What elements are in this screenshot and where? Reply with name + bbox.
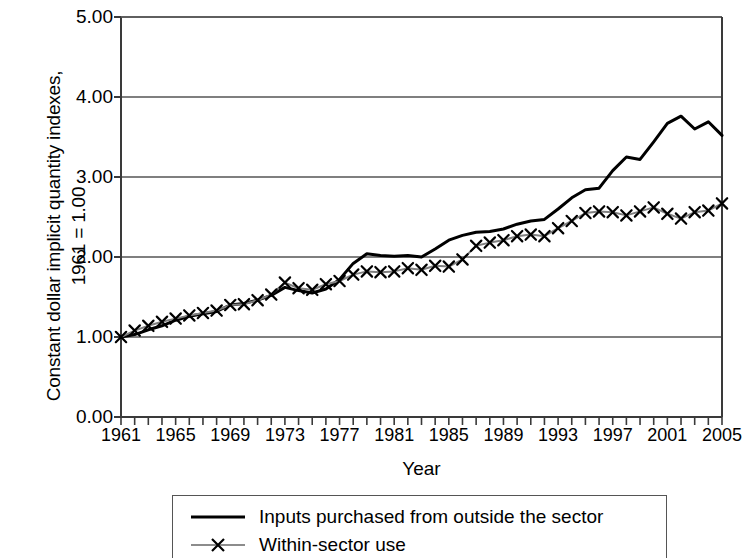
chart-legend: Inputs purchased from outside the sector… bbox=[172, 495, 667, 558]
legend-item-within-sector-use: Within-sector use bbox=[173, 532, 406, 558]
legend-label-within-sector-use: Within-sector use bbox=[259, 534, 406, 556]
legend-swatch-within-sector-use bbox=[173, 532, 259, 558]
legend-label-inputs-purchased: Inputs purchased from outside the sector bbox=[259, 506, 603, 528]
x-tick-4: 1977 bbox=[320, 425, 360, 446]
axis-frame bbox=[114, 17, 722, 417]
x-tick-0: 1961 bbox=[101, 425, 141, 446]
data-series bbox=[116, 116, 727, 342]
x-tick-2: 1969 bbox=[210, 425, 250, 446]
x-tick-7: 1989 bbox=[483, 425, 523, 446]
x-tick-6: 1985 bbox=[429, 425, 469, 446]
plot-area bbox=[0, 0, 746, 450]
x-tick-1: 1965 bbox=[156, 425, 196, 446]
x-axis-ticks bbox=[121, 417, 722, 425]
legend-item-inputs-purchased: Inputs purchased from outside the sector bbox=[173, 504, 603, 530]
x-axis-label: Year bbox=[121, 458, 722, 480]
x-tick-8: 1993 bbox=[538, 425, 578, 446]
x-tick-3: 1973 bbox=[265, 425, 305, 446]
x-tick-11: 2005 bbox=[702, 425, 742, 446]
x-tick-5: 1981 bbox=[374, 425, 414, 446]
chart-figure: Constant dollar implicit quantity indexe… bbox=[0, 0, 746, 558]
legend-swatch-inputs-purchased bbox=[173, 504, 259, 530]
x-tick-10: 2001 bbox=[647, 425, 687, 446]
gridlines bbox=[121, 17, 722, 337]
x-tick-9: 1997 bbox=[593, 425, 633, 446]
